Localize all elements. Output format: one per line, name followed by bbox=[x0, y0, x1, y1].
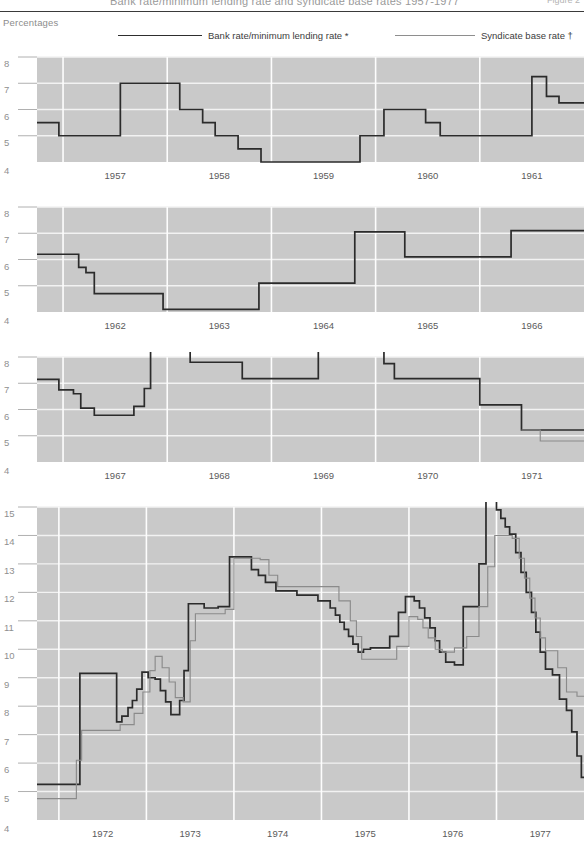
panel-1957-1961-svg: 1957195819591960196145678 bbox=[0, 52, 584, 189]
x-axis-year-label: 1975 bbox=[355, 828, 376, 839]
legend-item-bank-rate: Bank rate/minimum lending rate * bbox=[118, 30, 348, 41]
x-axis-year-label: 1972 bbox=[92, 828, 113, 839]
page-title: Bank rate/minimum lending rate and syndi… bbox=[110, 0, 459, 7]
y-axis-tick-label: 10 bbox=[4, 650, 15, 661]
x-axis-year-label: 1971 bbox=[521, 470, 542, 481]
chart-page: Bank rate/minimum lending rate and syndi… bbox=[0, 0, 584, 847]
x-axis-year-label: 1961 bbox=[521, 170, 542, 181]
panel-1962-1966-svg: 1962196319641965196645678 bbox=[0, 202, 584, 339]
chart-panel-1957-1961: 1957195819591960196145678 bbox=[0, 52, 584, 189]
y-axis-tick-label: 15 bbox=[4, 508, 15, 519]
x-axis-year-label: 1967 bbox=[105, 470, 126, 481]
units-label: Percentages bbox=[3, 17, 59, 28]
y-axis-tick-label: 13 bbox=[4, 565, 15, 576]
y-axis-tick-label: 6 bbox=[4, 764, 9, 775]
legend-label-bank-rate: Bank rate/minimum lending rate * bbox=[208, 30, 348, 41]
y-axis-tick-label: 8 bbox=[4, 58, 9, 69]
header-rule bbox=[0, 11, 584, 12]
y-axis-tick-label: 6 bbox=[4, 111, 9, 122]
legend-item-syndicate-rate: Syndicate base rate † bbox=[395, 30, 573, 41]
y-axis-tick-label: 8 bbox=[4, 707, 9, 718]
y-axis-tick-label: 6 bbox=[4, 261, 9, 272]
y-axis-tick-label: 4 bbox=[4, 165, 9, 176]
y-axis-tick-label: 5 bbox=[4, 137, 9, 148]
x-axis-year-label: 1957 bbox=[105, 170, 126, 181]
x-axis-year-label: 1965 bbox=[417, 320, 438, 331]
x-axis-year-label: 1964 bbox=[313, 320, 334, 331]
panel-1967-1971-svg: 1967196819691970197145678 bbox=[0, 352, 584, 489]
x-axis-year-label: 1977 bbox=[530, 828, 551, 839]
y-axis-tick-label: 8 bbox=[4, 208, 9, 219]
y-axis-tick-label: 14 bbox=[4, 536, 15, 547]
chart-panel-1972-1977: 1972197319741975197619774567891011121314… bbox=[0, 502, 584, 847]
x-axis-year-label: 1970 bbox=[417, 470, 438, 481]
chart-panel-1962-1966: 1962196319641965196645678 bbox=[0, 202, 584, 339]
x-axis-year-label: 1966 bbox=[521, 320, 542, 331]
x-axis-year-label: 1976 bbox=[442, 828, 463, 839]
legend-swatch-syndicate-rate bbox=[395, 35, 475, 36]
x-axis-year-label: 1963 bbox=[209, 320, 230, 331]
y-axis-tick-label: 7 bbox=[4, 384, 9, 395]
y-axis-tick-label: 5 bbox=[4, 287, 9, 298]
y-axis-tick-label: 7 bbox=[4, 234, 9, 245]
x-axis-year-label: 1968 bbox=[209, 470, 230, 481]
title-strip: Bank rate/minimum lending rate and syndi… bbox=[0, 0, 584, 11]
y-axis-tick-label: 8 bbox=[4, 358, 9, 369]
x-axis-year-label: 1973 bbox=[180, 828, 201, 839]
y-axis-tick-label: 12 bbox=[4, 593, 15, 604]
legend-label-syndicate-rate: Syndicate base rate † bbox=[481, 30, 573, 41]
x-axis-year-label: 1960 bbox=[417, 170, 438, 181]
x-axis-year-label: 1959 bbox=[313, 170, 334, 181]
x-axis-year-label: 1962 bbox=[105, 320, 126, 331]
y-axis-tick-label: 4 bbox=[4, 315, 9, 326]
y-axis-tick-label: 9 bbox=[4, 679, 9, 690]
panel-1972-1977-svg: 1972197319741975197619774567891011121314… bbox=[0, 502, 584, 847]
chart-panel-1967-1971: 1967196819691970197145678 bbox=[0, 352, 584, 489]
y-axis-tick-label: 4 bbox=[4, 823, 9, 834]
y-axis-tick-label: 7 bbox=[4, 736, 9, 747]
y-axis-tick-label: 4 bbox=[4, 465, 9, 476]
figure-label: Figure 2 bbox=[547, 0, 580, 5]
y-axis-tick-label: 6 bbox=[4, 411, 9, 422]
y-axis-tick-label: 7 bbox=[4, 84, 9, 95]
x-axis-year-label: 1969 bbox=[313, 470, 334, 481]
y-axis-tick-label: 5 bbox=[4, 793, 9, 804]
chart-legend: Bank rate/minimum lending rate * Syndica… bbox=[0, 30, 584, 44]
legend-swatch-bank-rate bbox=[118, 35, 202, 36]
plot-background bbox=[37, 507, 584, 820]
y-axis-tick-label: 5 bbox=[4, 437, 9, 448]
y-axis-tick-label: 11 bbox=[4, 622, 14, 633]
x-axis-year-label: 1958 bbox=[209, 170, 230, 181]
x-axis-year-label: 1974 bbox=[267, 828, 288, 839]
